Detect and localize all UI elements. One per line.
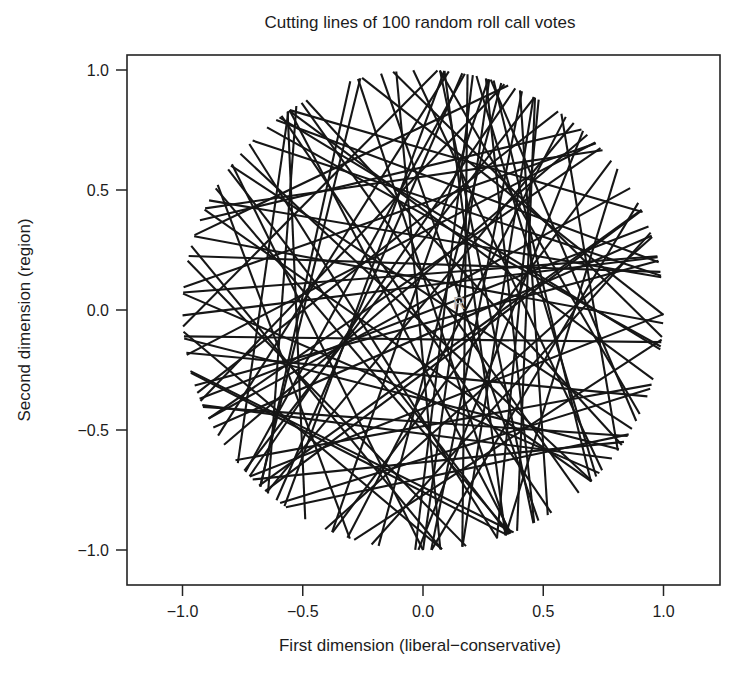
y-tick-label: −0.5 <box>77 422 109 439</box>
x-axis-label: First dimension (liberal−conservative) <box>279 636 561 655</box>
x-tick-label: 1.0 <box>652 603 674 620</box>
x-tick-label: −0.5 <box>287 603 319 620</box>
x-tick-label: −1.0 <box>167 603 199 620</box>
page-title: Cutting lines of 100 random roll call vo… <box>265 13 576 32</box>
r-watermark: R <box>453 294 465 313</box>
x-tick-label: 0.0 <box>412 603 434 620</box>
y-tick-label: 1.0 <box>87 62 109 79</box>
y-axis-label: Second dimension (region) <box>15 218 34 421</box>
cutting-lines-plot: Cutting lines of 100 random roll call vo… <box>0 0 751 677</box>
y-tick-label: −1.0 <box>77 542 109 559</box>
y-tick-label: 0.0 <box>87 302 109 319</box>
x-tick-label: 0.5 <box>532 603 554 620</box>
y-tick-label: 0.5 <box>87 182 109 199</box>
